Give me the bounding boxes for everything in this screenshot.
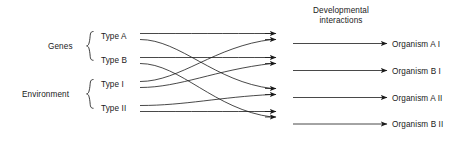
- curve-typeI-to-node1: [140, 40, 272, 82]
- source-label-type-i: Type I: [101, 80, 124, 90]
- outcome-arrows: [293, 44, 387, 125]
- brace-genes: [87, 32, 94, 61]
- outcome-label-organism-b-i: Organism B I: [392, 67, 441, 77]
- source-label-type-ii: Type II: [101, 104, 126, 114]
- source-link-curves: [140, 34, 272, 118]
- group-label-environment: Environment: [22, 90, 69, 100]
- curve-typeB-to-node4: [140, 64, 272, 118]
- brace-environment: [87, 80, 94, 109]
- header-line-1: Developmental: [293, 6, 389, 16]
- outcome-label-organism-a-i: Organism A I: [392, 40, 440, 50]
- outcome-label-organism-a-ii: Organism A II: [392, 94, 442, 104]
- figure-canvas: Developmental interactions Genes Environ…: [0, 0, 475, 142]
- header-line-2: interactions: [293, 16, 389, 26]
- source-link-arrowheads: [265, 34, 276, 118]
- curve-typeA-to-node3: [140, 40, 272, 89]
- developmental-interactions-header: Developmental interactions: [293, 6, 389, 25]
- source-label-type-a: Type A: [101, 32, 127, 42]
- curve-typeII-to-node3: [140, 95, 272, 106]
- outcome-label-organism-b-ii: Organism B II: [392, 120, 443, 130]
- group-label-genes: Genes: [48, 42, 73, 52]
- source-label-type-b: Type B: [101, 56, 127, 66]
